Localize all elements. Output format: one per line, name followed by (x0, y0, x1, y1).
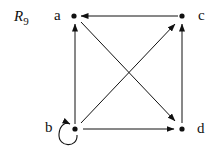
node-d-dot (179, 126, 184, 131)
edge-b-c (81, 24, 175, 123)
node-a-dot (71, 13, 76, 18)
edge-a-d (81, 22, 175, 121)
node-d-label: d (197, 121, 205, 136)
digraph-svg (0, 0, 215, 154)
node-b-label: b (45, 120, 53, 135)
relation-digraph: R9 a b c d (0, 0, 215, 154)
node-b-dot (72, 126, 77, 131)
node-a-label: a (54, 8, 61, 23)
node-c-dot (179, 13, 184, 18)
relation-label: R9 (14, 9, 29, 27)
relation-name: R (14, 8, 23, 24)
relation-subscript: 9 (23, 15, 29, 27)
node-c-label: c (198, 8, 205, 23)
